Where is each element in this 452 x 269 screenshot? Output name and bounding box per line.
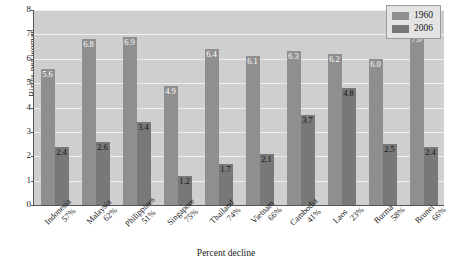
legend-item-1960: 1960: [392, 9, 433, 22]
legend: 1960 2006: [386, 5, 441, 39]
bar: 2.4: [424, 147, 438, 206]
bar-value-label: 6.9: [124, 38, 135, 47]
y-axis-tick-label: 8: [3, 5, 31, 14]
legend-swatch-1960-icon: [392, 12, 409, 20]
bar-value-label: 6.1: [247, 57, 258, 66]
y-axis-tick-label: 1: [3, 176, 31, 185]
bar: 3.7: [301, 115, 315, 205]
bar-value-label: 1.7: [220, 165, 231, 174]
bar: 6.4: [205, 49, 219, 205]
bar: 5.6: [41, 69, 55, 206]
bar: 2.1: [260, 154, 274, 205]
legend-item-2006: 2006: [392, 22, 433, 35]
bar-value-label: 6.4: [206, 50, 217, 59]
bar: 4.8: [342, 88, 356, 205]
bar-group: 4.91.2: [157, 10, 198, 205]
bar: 6.2: [328, 54, 342, 205]
bar: 7.0: [410, 34, 424, 205]
y-axis-tick-label: 6: [3, 54, 31, 63]
bar-group: 6.33.7: [280, 10, 321, 205]
bar: 4.9: [164, 86, 178, 205]
bar: 2.5: [383, 144, 397, 205]
bar: 2.6: [96, 142, 110, 205]
y-axis-tick-label: 7: [3, 29, 31, 38]
bar-value-label: 2.6: [97, 143, 108, 152]
bar-value-label: 6.0: [370, 60, 381, 69]
bar-group: 6.41.7: [198, 10, 239, 205]
bar-value-label: 2.1: [261, 155, 272, 164]
y-axis-tick-label: 5: [3, 78, 31, 87]
bar-group: 6.82.6: [75, 10, 116, 205]
bar-group: 7.02.4: [403, 10, 444, 205]
bar-value-label: 1.2: [179, 177, 190, 186]
bar-value-label: 3.4: [138, 123, 149, 132]
bar-value-label: 4.9: [165, 87, 176, 96]
y-axis-tick-label: 0: [3, 200, 31, 209]
bar: 6.8: [82, 39, 96, 205]
bar-group: 6.93.4: [116, 10, 157, 205]
bar-value-label: 6.8: [83, 40, 94, 49]
bar: 6.3: [287, 51, 301, 205]
y-axis-tick-label: 3: [3, 127, 31, 136]
bar: 3.4: [137, 122, 151, 205]
bar-value-label: 2.5: [384, 145, 395, 154]
bar-group: 5.62.4: [34, 10, 75, 205]
plot-area: 012345678 5.62.46.82.66.93.44.91.26.41.7…: [33, 10, 444, 206]
legend-label-2006: 2006: [414, 24, 433, 34]
bar-value-label: 2.4: [425, 148, 436, 157]
legend-label-1960: 1960: [414, 11, 433, 21]
bar-value-label: 4.8: [343, 89, 354, 98]
bar-value-label: 3.7: [302, 116, 313, 125]
bar-group: 6.24.8: [321, 10, 362, 205]
bar-value-label: 2.4: [56, 148, 67, 157]
fertility-bar-chart: Births per woman 012345678 5.62.46.82.66…: [0, 0, 452, 269]
y-axis-tick-label: 4: [3, 103, 31, 112]
bar-group: 6.12.1: [239, 10, 280, 205]
bar-value-label: 6.3: [288, 52, 299, 61]
bar: 6.9: [123, 37, 137, 205]
x-axis-title: Percent decline: [0, 248, 452, 258]
bar-groups: 5.62.46.82.66.93.44.91.26.41.76.12.16.33…: [34, 10, 444, 205]
bar-value-label: 5.6: [42, 70, 53, 79]
bar: 6.1: [246, 56, 260, 205]
bar-group: 6.02.5: [362, 10, 403, 205]
bar: 6.0: [369, 59, 383, 205]
legend-swatch-2006-icon: [392, 25, 409, 33]
y-axis-tick-label: 2: [3, 151, 31, 160]
bar-value-label: 6.2: [329, 55, 340, 64]
